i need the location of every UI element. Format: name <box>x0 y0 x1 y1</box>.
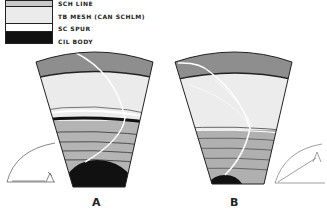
inset-angle-diagram-b <box>275 144 325 183</box>
panel-a-caption: A <box>92 196 101 209</box>
panel-b-caption: B <box>230 196 238 209</box>
panel-b-wedge <box>170 40 300 190</box>
diagram-figure <box>0 0 327 213</box>
panel-a-wedge <box>30 40 160 190</box>
inset-angle-diagram-a <box>7 143 55 182</box>
